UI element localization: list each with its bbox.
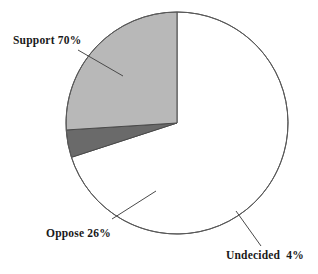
pie-slice-oppose[interactable] <box>66 12 177 130</box>
leader-line-undecided <box>236 211 261 246</box>
pie-chart: Support 70% Oppose 26% Undecided 4% <box>0 0 318 274</box>
pie-label-undecided: Undecided 4% <box>226 250 304 262</box>
pie-label-oppose: Oppose 26% <box>46 228 111 240</box>
pie-label-support: Support 70% <box>13 35 81 47</box>
